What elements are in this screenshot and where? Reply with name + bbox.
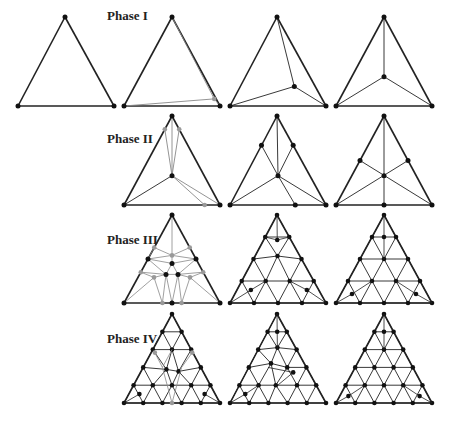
mesh-node	[163, 127, 168, 132]
mesh-edge	[278, 145, 293, 175]
mesh-node	[237, 383, 242, 388]
mesh-triangle-p4-s1	[122, 312, 223, 406]
mesh-edge	[287, 350, 296, 368]
mesh-edge	[297, 350, 307, 368]
mesh-triangle-p2-s2	[228, 114, 329, 208]
mesh-node	[146, 257, 151, 262]
mesh-node	[177, 127, 182, 132]
mesh-node	[293, 203, 298, 208]
phase-label: Phase III	[107, 232, 158, 248]
mesh-edge	[268, 314, 277, 332]
mesh-node	[151, 383, 156, 388]
mesh-edge	[172, 350, 179, 372]
mesh-node	[266, 401, 271, 406]
mesh-edge	[277, 116, 278, 176]
mesh-node	[294, 347, 299, 352]
mesh-edge	[148, 259, 172, 263]
mesh-triangle-p2-s3	[334, 114, 435, 208]
mesh-node	[370, 235, 375, 240]
mesh-node	[265, 330, 270, 335]
mesh-node	[324, 401, 329, 406]
mesh-node	[256, 383, 261, 388]
mesh-edge	[384, 350, 394, 368]
mesh-edge	[172, 17, 214, 99]
mesh-edge	[179, 367, 201, 371]
mesh-edge	[352, 281, 372, 294]
phase-label: Phase II	[107, 131, 153, 147]
mesh-edge	[413, 385, 423, 403]
mesh-node	[350, 292, 355, 297]
mesh-edge	[143, 367, 153, 385]
mesh-node	[372, 401, 377, 406]
mesh-node	[247, 401, 252, 406]
mesh-node	[285, 330, 290, 335]
mesh-edge	[348, 259, 360, 281]
mesh-node	[199, 365, 204, 370]
mesh-edge	[172, 314, 182, 332]
mesh-edge	[394, 350, 404, 368]
mesh-edge	[182, 353, 193, 368]
mesh-edge	[277, 314, 287, 332]
mesh-node	[285, 365, 290, 370]
mesh-edge	[277, 332, 286, 348]
mesh-triangle-p1-s1	[16, 15, 117, 109]
mesh-node	[256, 347, 261, 352]
mesh-edge	[258, 332, 267, 350]
mesh-edge	[374, 367, 384, 385]
mesh-edge	[278, 176, 295, 205]
mesh-node	[275, 254, 280, 259]
mesh-edge	[153, 385, 163, 403]
mesh-edge	[372, 215, 384, 237]
mesh-edge	[179, 371, 192, 385]
mesh-edge	[403, 367, 413, 385]
mesh-edge	[172, 176, 205, 205]
mesh-node	[275, 15, 280, 20]
mesh-node	[199, 401, 204, 406]
mesh-edge	[276, 385, 288, 403]
mesh-edge	[408, 281, 420, 303]
mesh-edge	[374, 350, 384, 368]
mesh-edge	[153, 369, 167, 385]
mesh-node	[382, 203, 387, 208]
mesh-node	[247, 365, 252, 370]
mesh-edge	[148, 259, 166, 274]
mesh-edge	[271, 348, 277, 364]
mesh-edge	[365, 367, 375, 385]
mesh-edge	[154, 248, 172, 256]
mesh-node	[406, 158, 411, 163]
mesh-node	[160, 401, 165, 406]
mesh-edge	[191, 385, 201, 403]
mesh-edge	[277, 116, 326, 205]
mesh-edge	[242, 259, 254, 281]
mesh-node	[212, 97, 217, 102]
mesh-node	[382, 114, 387, 119]
mesh-edge	[172, 255, 196, 259]
mesh-node	[218, 301, 223, 306]
mesh-edge	[178, 259, 196, 274]
mesh-edge	[18, 17, 65, 106]
mesh-node	[382, 330, 387, 335]
mesh-node	[112, 104, 117, 109]
mesh-edge	[124, 99, 214, 106]
mesh-edge	[372, 281, 384, 303]
mesh-node	[170, 301, 175, 306]
mesh-edge	[166, 369, 172, 385]
phase-label: Phase I	[107, 8, 148, 24]
mesh-node	[152, 275, 157, 280]
mesh-node	[305, 288, 310, 293]
mesh-edge	[165, 129, 172, 175]
mesh-node	[141, 365, 146, 370]
mesh-edge	[396, 281, 416, 294]
mesh-node	[363, 347, 368, 352]
mesh-edge	[403, 385, 413, 403]
mesh-node	[372, 365, 377, 370]
mesh-edge	[261, 145, 278, 175]
mesh-edge	[166, 274, 172, 303]
mesh-node	[334, 104, 339, 109]
mesh-edge	[360, 259, 372, 281]
mesh-edge	[297, 367, 306, 385]
mesh-node	[276, 173, 281, 178]
mesh-edge	[254, 256, 278, 259]
mesh-node	[314, 383, 319, 388]
mesh-triangle-p1-s4	[334, 15, 435, 109]
